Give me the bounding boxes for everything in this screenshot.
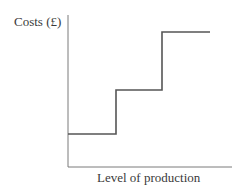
x-axis-label: Level of production <box>97 170 200 186</box>
step-cost-line <box>68 32 210 134</box>
y-axis-label: Costs (£) <box>14 14 61 30</box>
